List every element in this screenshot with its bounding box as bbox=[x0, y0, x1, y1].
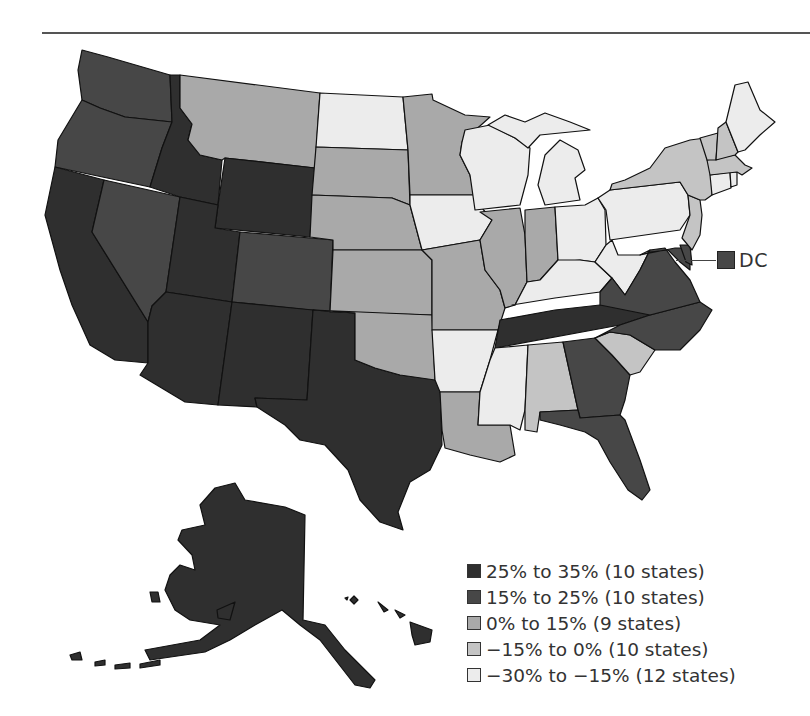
legend-swatch bbox=[467, 590, 481, 604]
legend: 25% to 35% (10 states) 15% to 25% (10 st… bbox=[467, 558, 736, 688]
legend-item: 0% to 15% (9 states) bbox=[467, 610, 736, 636]
legend-item: 15% to 25% (10 states) bbox=[467, 584, 736, 610]
legend-label: −15% to 0% (10 states) bbox=[486, 639, 709, 660]
state-CT[interactable] bbox=[710, 172, 731, 195]
state-MI-lower[interactable] bbox=[538, 140, 585, 205]
legend-swatch bbox=[467, 642, 481, 656]
legend-item: −15% to 0% (10 states) bbox=[467, 636, 736, 662]
legend-label: 15% to 25% (10 states) bbox=[486, 587, 705, 608]
state-MT[interactable] bbox=[180, 75, 320, 168]
state-OH[interactable] bbox=[555, 198, 606, 262]
legend-label: −30% to −15% (12 states) bbox=[486, 665, 736, 686]
state-RI[interactable] bbox=[730, 172, 737, 187]
dc-label: DC bbox=[739, 249, 768, 271]
legend-swatch bbox=[467, 616, 481, 630]
legend-label: 0% to 15% (9 states) bbox=[486, 613, 681, 634]
legend-item: 25% to 35% (10 states) bbox=[467, 558, 736, 584]
dc-swatch bbox=[717, 251, 735, 269]
legend-swatch bbox=[467, 668, 481, 682]
state-ND[interactable] bbox=[316, 93, 408, 150]
state-WY[interactable] bbox=[215, 158, 315, 237]
dc-leader-line bbox=[676, 260, 716, 261]
state-AK[interactable] bbox=[145, 483, 375, 688]
state-NM[interactable] bbox=[218, 302, 313, 407]
legend-swatch bbox=[467, 564, 481, 578]
legend-label: 25% to 35% (10 states) bbox=[486, 561, 705, 582]
state-KS[interactable] bbox=[330, 250, 432, 315]
state-ME[interactable] bbox=[726, 82, 775, 152]
state-CO[interactable] bbox=[232, 232, 333, 312]
state-AZ[interactable] bbox=[140, 292, 232, 405]
state-PA[interactable] bbox=[598, 182, 690, 240]
legend-item: −30% to −15% (12 states) bbox=[467, 662, 736, 688]
state-FL[interactable] bbox=[540, 410, 650, 500]
state-HI[interactable] bbox=[345, 596, 432, 645]
